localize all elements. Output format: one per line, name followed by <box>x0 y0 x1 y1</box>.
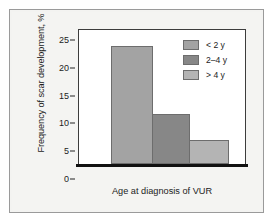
y-tick-label-5: 5 <box>64 146 69 156</box>
y-tick-mark-5 <box>70 151 75 152</box>
chart-legend: < 2 y 2–4 y > 4 y <box>183 38 253 83</box>
y-tick-mark-15 <box>70 95 75 96</box>
legend-swatch-icon-under-2y <box>183 40 199 50</box>
legend-label-under-2y: < 2 y <box>206 40 225 50</box>
legend-item-2-to-4y[interactable]: 2–4 y <box>183 53 253 66</box>
x-axis-baseline <box>76 164 248 167</box>
y-tick-label-15: 15 <box>59 91 69 101</box>
plot-area: < 2 y 2–4 y > 4 y <box>78 29 246 165</box>
y-tick-mark-10 <box>70 123 75 124</box>
y-tick-label-25: 25 <box>59 35 69 45</box>
legend-item-under-2y[interactable]: < 2 y <box>183 38 253 51</box>
legend-label-2-to-4y: 2–4 y <box>206 55 227 65</box>
y-axis-title: Frequency of scar development, % <box>36 8 46 158</box>
legend-label-over-4y: > 4 y <box>206 70 225 80</box>
figure-background: Frequency of scar development, % 0 5 10 … <box>12 12 261 210</box>
y-tick-mark-25 <box>70 39 75 40</box>
bar-over-4y[interactable] <box>189 140 229 164</box>
figure-frame: Frequency of scar development, % 0 5 10 … <box>9 9 264 213</box>
bar-chart: Frequency of scar development, % 0 5 10 … <box>12 12 263 212</box>
bar-under-2y[interactable] <box>111 46 153 164</box>
y-tick-mark-0 <box>70 179 75 180</box>
y-tick-label-20: 20 <box>59 63 69 73</box>
legend-item-over-4y[interactable]: > 4 y <box>183 68 253 81</box>
y-tick-label-0: 0 <box>64 174 69 184</box>
x-axis-title: Age at diagnosis of VUR <box>78 186 246 196</box>
bar-2-to-4y[interactable] <box>152 114 190 164</box>
legend-swatch-icon-over-4y <box>183 70 199 80</box>
legend-swatch-icon-2-to-4y <box>183 55 199 65</box>
y-tick-label-10: 10 <box>59 118 69 128</box>
y-tick-mark-20 <box>70 67 75 68</box>
y-axis-ticks: 0 5 10 15 20 25 <box>52 26 74 179</box>
